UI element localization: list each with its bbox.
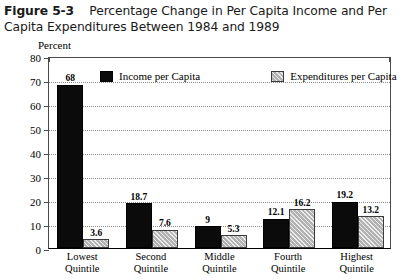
gray-hatched-swatch-icon bbox=[271, 71, 284, 82]
bar-expenditures: 5.3 bbox=[221, 235, 247, 248]
bar-value-label: 68 bbox=[66, 74, 76, 84]
y-axis-tick-label: 80 bbox=[30, 53, 41, 64]
y-axis-tick-label: 0 bbox=[36, 245, 42, 256]
x-axis-category-label: LowestQuintile bbox=[48, 251, 117, 275]
bar-value-label: 18.7 bbox=[131, 193, 148, 203]
bar-value-label: 19.2 bbox=[336, 191, 353, 201]
category-label-line: Fourth bbox=[254, 251, 323, 263]
bar-income: 68 bbox=[57, 85, 83, 248]
y-axis-tick-label: 30 bbox=[30, 173, 41, 184]
bar-group: 12.116.2 bbox=[263, 58, 315, 248]
bars-layer: 683.618.77.695.312.116.219.213.2 bbox=[49, 58, 390, 248]
category-label-line: Second bbox=[117, 251, 186, 263]
bar-value-label: 7.6 bbox=[159, 219, 171, 229]
bar-group: 95.3 bbox=[195, 58, 247, 248]
bar-group: 19.213.2 bbox=[332, 58, 384, 248]
bar-value-label: 3.6 bbox=[90, 229, 102, 239]
x-axis-category-label: FourthQuintile bbox=[254, 251, 323, 275]
x-axis-category-label: SecondQuintile bbox=[117, 251, 186, 275]
category-label-line: Lowest bbox=[48, 251, 117, 263]
legend-label-income: Income per Capita bbox=[119, 70, 200, 82]
bar-value-label: 5.3 bbox=[228, 225, 240, 235]
legend-item-expenditures: Expenditures per Capita bbox=[271, 70, 396, 82]
black-solid-swatch-icon bbox=[100, 71, 113, 82]
plot-area: 01020304050607080 683.618.77.695.312.116… bbox=[48, 57, 391, 249]
legend-item-income: Income per Capita bbox=[100, 70, 200, 82]
category-label-line: Quintile bbox=[48, 263, 117, 275]
chart-legend: Income per Capita Expenditures per Capit… bbox=[100, 70, 397, 82]
y-axis-tick-label: 70 bbox=[30, 77, 41, 88]
y-axis-tick-label: 40 bbox=[30, 149, 41, 160]
bar-expenditures: 16.2 bbox=[289, 209, 315, 248]
bar-expenditures: 3.6 bbox=[83, 239, 109, 248]
bar-value-label: 16.2 bbox=[294, 199, 311, 209]
category-label-line: Quintile bbox=[117, 263, 186, 275]
category-label-line: Quintile bbox=[322, 263, 391, 275]
bar-value-label: 12.1 bbox=[268, 208, 285, 218]
legend-label-expenditures: Expenditures per Capita bbox=[290, 70, 396, 82]
y-axis-tick-label: 50 bbox=[30, 125, 41, 136]
category-label-line: Highest bbox=[322, 251, 391, 263]
category-label-line: Quintile bbox=[254, 263, 323, 275]
y-axis-tick-label: 10 bbox=[30, 221, 41, 232]
y-axis-unit-label: Percent bbox=[38, 39, 71, 51]
y-axis-tick-label: 20 bbox=[30, 197, 41, 208]
figure-title-block: Figure 5-3 Percentage Change in Per Capi… bbox=[4, 3, 402, 35]
category-label-line: Middle bbox=[185, 251, 254, 263]
bar-income: 9 bbox=[195, 226, 221, 248]
bar-income: 18.7 bbox=[126, 203, 152, 248]
y-axis-tick-label: 60 bbox=[30, 101, 41, 112]
category-label-line: Quintile bbox=[185, 263, 254, 275]
x-axis-category-label: MiddleQuintile bbox=[185, 251, 254, 275]
bar-income: 19.2 bbox=[332, 202, 358, 248]
x-axis-category-label: HighestQuintile bbox=[322, 251, 391, 275]
bar-expenditures: 13.2 bbox=[358, 216, 384, 248]
bar-value-label: 13.2 bbox=[362, 206, 379, 216]
figure-number: Figure 5-3 bbox=[4, 4, 74, 18]
bar-income: 12.1 bbox=[263, 219, 289, 248]
bar-group: 683.6 bbox=[57, 58, 109, 248]
bar-value-label: 9 bbox=[205, 216, 210, 226]
bar-group: 18.77.6 bbox=[126, 58, 178, 248]
bar-expenditures: 7.6 bbox=[152, 230, 178, 248]
